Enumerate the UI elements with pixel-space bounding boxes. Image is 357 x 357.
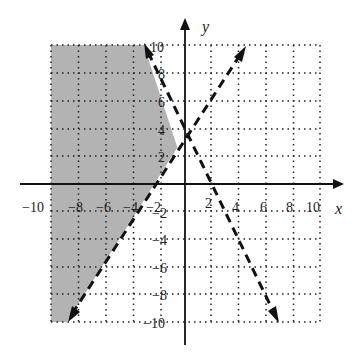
svg-text:−6: −6 (152, 261, 167, 276)
x-axis-arrow-icon (333, 179, 344, 189)
svg-text:2: 2 (158, 150, 165, 165)
svg-text:2: 2 (205, 196, 212, 211)
svg-text:−6: −6 (96, 200, 111, 215)
arrow-icon (268, 306, 279, 323)
svg-text:−4: −4 (123, 200, 138, 215)
y-axis-arrow-icon (180, 18, 190, 30)
svg-text:−4: −4 (152, 233, 167, 248)
svg-text:−8: −8 (68, 200, 83, 215)
svg-text:10: 10 (150, 40, 164, 55)
svg-text:−10: −10 (143, 316, 165, 331)
svg-text:4: 4 (232, 200, 239, 215)
svg-text:6: 6 (158, 95, 165, 110)
svg-text:−10: −10 (22, 200, 44, 215)
svg-text:8: 8 (158, 67, 165, 82)
x-axis-label: x (334, 200, 342, 217)
svg-text:10: 10 (306, 200, 320, 215)
svg-text:4: 4 (158, 123, 165, 138)
svg-text:−8: −8 (152, 288, 167, 303)
svg-text:−2: −2 (152, 206, 167, 221)
y-axis-label: y (200, 18, 210, 36)
svg-text:6: 6 (260, 200, 267, 215)
inequality-graph: −10 −8 −6 −4 −2 2 4 6 8 10 x y 10 8 6 4 … (0, 0, 357, 357)
svg-text:8: 8 (286, 200, 293, 215)
